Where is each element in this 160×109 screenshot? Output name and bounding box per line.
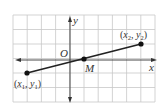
origin-label: O bbox=[60, 47, 68, 59]
p1-label: (x1, y1) bbox=[14, 78, 41, 90]
midpoint-label: M bbox=[84, 62, 95, 74]
point-p1 bbox=[24, 70, 29, 75]
x-axis-label: x bbox=[148, 61, 154, 73]
point-midpoint bbox=[81, 56, 86, 61]
y-axis-up-arrow-icon bbox=[68, 16, 72, 22]
p2-label: (x2, y2) bbox=[120, 29, 147, 41]
y-axis-label: y bbox=[72, 14, 78, 26]
midpoint-diagram: y x O M (x1, y1) (x2, y2) bbox=[0, 0, 160, 109]
point-p2 bbox=[138, 41, 143, 46]
